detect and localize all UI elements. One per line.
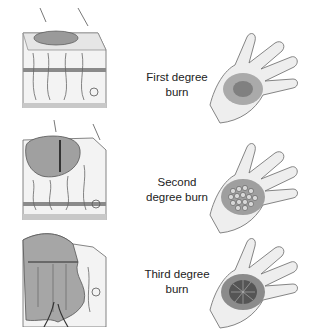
third-degree-hand: [205, 230, 315, 330]
first-degree-row: First degree burn: [0, 0, 319, 105]
third-degree-row: Third degree burn: [0, 222, 319, 327]
second-degree-skin-cross-section: [18, 110, 108, 210]
second-degree-row: Second degree burn: [0, 110, 319, 215]
first-degree-skin-cross-section: [18, 8, 108, 108]
second-degree-hand: [205, 135, 315, 235]
third-degree-skin-cross-section: [18, 222, 108, 322]
